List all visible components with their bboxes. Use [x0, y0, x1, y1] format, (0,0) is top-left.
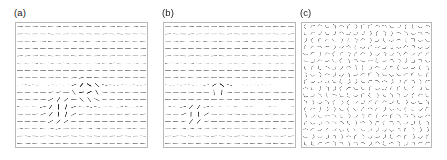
panel-c-label: (c) — [300, 7, 311, 18]
panel-c-field — [302, 23, 431, 147]
panel-c-frame — [301, 22, 432, 148]
figure-root: (a) (b) (c) Three side-by-side square si… — [0, 0, 447, 160]
panel-c: (c) — [0, 0, 447, 160]
